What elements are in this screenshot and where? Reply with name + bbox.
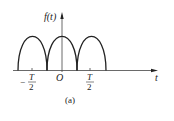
tick-left-num: T bbox=[29, 72, 35, 82]
y-axis-label: f(t) bbox=[44, 11, 57, 23]
origin-label: O bbox=[56, 72, 63, 83]
x-axis-label: t bbox=[155, 72, 158, 83]
tick-right-den: 2 bbox=[87, 82, 92, 92]
tick-right-num: T bbox=[87, 72, 93, 82]
f-axis-arrow-icon bbox=[60, 12, 63, 19]
figure-caption: (a) bbox=[65, 95, 75, 105]
arch-left bbox=[18, 36, 47, 70]
tick-left-den: 2 bbox=[29, 82, 34, 92]
tick-left-sign: − bbox=[20, 77, 25, 87]
rectified-sine-diagram: f(t) t O − T 2 T 2 (a) bbox=[0, 0, 174, 121]
arch-right bbox=[77, 36, 106, 70]
